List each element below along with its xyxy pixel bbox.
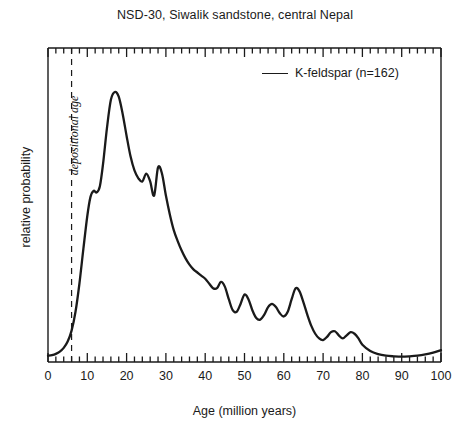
kfeldspar-probability-curve [48, 92, 441, 357]
x-axis-tick-label: 0 [45, 369, 52, 383]
depositional-age-annotation-label: depositional age [67, 61, 82, 211]
x-axis-tick-labels: 0102030405060708090100 [0, 369, 470, 389]
axis-frame [48, 48, 441, 362]
x-axis-tick-label: 80 [355, 369, 369, 383]
x-axis-tick-label: 60 [277, 369, 291, 383]
x-axis-tick-label: 90 [395, 369, 409, 383]
x-axis-tick-label: 100 [431, 369, 452, 383]
x-axis-tick-label: 30 [159, 369, 173, 383]
y-axis-label: relative probability [19, 97, 33, 297]
x-axis-tick-label: 40 [198, 369, 212, 383]
page-title: NSD-30, Siwalik sandstone, central Nepal [0, 8, 470, 22]
x-axis-tick-label: 50 [238, 369, 252, 383]
legend-entry-label: K-feldspar (n=162) [295, 66, 399, 80]
chart-figure: NSD-30, Siwalik sandstone, central Nepal… [0, 0, 470, 440]
x-axis-label: Age (million years) [48, 404, 441, 418]
line-swatch-icon [262, 73, 288, 74]
x-axis-tick-label: 70 [316, 369, 330, 383]
x-axis-tick-label: 20 [120, 369, 134, 383]
x-axis-tick-label: 10 [80, 369, 94, 383]
x-axis-ticks-top [48, 48, 441, 57]
chart-legend: K-feldspar (n=162) [262, 66, 399, 80]
